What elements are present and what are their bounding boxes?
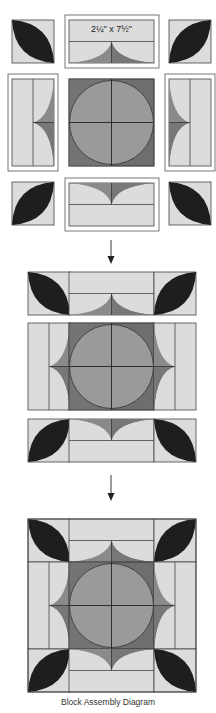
leaf-square-top-right — [169, 20, 211, 63]
arrow-down-icon — [108, 240, 115, 264]
stage-exploded-units — [8, 15, 215, 231]
stage-joined-rows — [28, 272, 196, 462]
leaf-square-bottom-left — [12, 182, 54, 225]
finished-row-top — [28, 519, 196, 562]
diagram-caption: Block Assembly Diagram — [0, 697, 216, 707]
finished-row-bottom — [28, 649, 196, 692]
stage-finished-block — [28, 519, 196, 692]
leaf-square-top-left — [12, 20, 54, 63]
arrow-down-icon — [108, 475, 115, 501]
strip-unit-left — [12, 79, 54, 166]
row-middle — [28, 323, 196, 410]
row-top — [28, 272, 196, 315]
strip-unit-right — [169, 79, 211, 166]
leaf-square-bottom-right — [169, 182, 211, 225]
finished-row-middle — [28, 562, 196, 649]
strip-unit-bottom — [69, 183, 154, 226]
center-circle-block — [69, 79, 154, 166]
row-bottom — [28, 419, 196, 462]
block-assembly-diagram — [0, 0, 216, 713]
strip-size-label: 2¼" x 7½" — [69, 24, 154, 34]
